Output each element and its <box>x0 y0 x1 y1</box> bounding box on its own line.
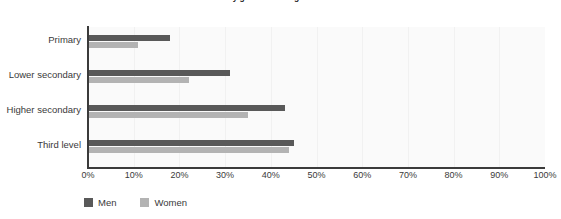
gridline <box>271 27 272 167</box>
legend-swatch-women <box>140 198 149 207</box>
x-tick-label: 40% <box>251 170 291 180</box>
legend-swatch-men <box>84 198 93 207</box>
horizontal-bar-chart: ...rate by gender and highest education … <box>0 0 561 219</box>
x-axis-line <box>87 167 545 169</box>
gridline <box>454 27 455 167</box>
bar-third-level-women <box>88 147 289 153</box>
x-tick-label: 30% <box>205 170 245 180</box>
x-tick-label: 70% <box>388 170 428 180</box>
gridline <box>134 27 135 167</box>
chart-title: ...rate by gender and highest education <box>0 0 561 4</box>
gridline <box>317 27 318 167</box>
legend-item-men[interactable]: Men <box>84 197 116 208</box>
x-tick-label: 100% <box>525 170 561 180</box>
chart-legend: MenWomen <box>84 197 187 208</box>
bar-primary-women <box>88 42 138 48</box>
legend-label-women: Women <box>154 197 187 208</box>
bar-higher-secondary-men <box>88 105 285 111</box>
gridline <box>179 27 180 167</box>
x-tick-label: 10% <box>114 170 154 180</box>
x-tick-label: 50% <box>297 170 337 180</box>
x-tick-label: 20% <box>159 170 199 180</box>
category-label-primary: Primary <box>0 34 81 45</box>
bar-lower-secondary-men <box>88 70 230 76</box>
bar-lower-secondary-women <box>88 77 189 83</box>
legend-label-men: Men <box>98 197 116 208</box>
category-label-higher-secondary: Higher secondary <box>0 104 81 115</box>
category-label-third-level: Third level <box>0 139 81 150</box>
x-tick-label: 0% <box>68 170 108 180</box>
legend-item-women[interactable]: Women <box>140 197 187 208</box>
gridline <box>408 27 409 167</box>
bar-primary-men <box>88 35 170 41</box>
plot-area <box>88 27 545 167</box>
x-tick-label: 60% <box>342 170 382 180</box>
gridline <box>499 27 500 167</box>
gridline <box>225 27 226 167</box>
x-tick-label: 90% <box>479 170 519 180</box>
y-axis-line <box>87 26 89 168</box>
category-label-lower-secondary: Lower secondary <box>0 69 81 80</box>
bar-third-level-men <box>88 140 294 146</box>
bar-higher-secondary-women <box>88 112 248 118</box>
gridline <box>362 27 363 167</box>
x-tick-label: 80% <box>434 170 474 180</box>
